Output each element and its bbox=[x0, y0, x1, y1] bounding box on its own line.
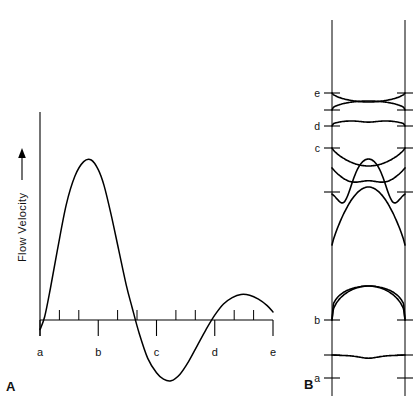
velocity-profile-curves bbox=[332, 93, 405, 358]
velocity-profile-b bbox=[332, 286, 405, 320]
x-axis-major-ticks bbox=[40, 320, 273, 336]
x-tick-label-d: d bbox=[212, 346, 218, 358]
profile-label-e: e bbox=[314, 87, 320, 99]
vessel-wall-ticks bbox=[324, 93, 413, 378]
x-tick-label-b: b bbox=[95, 346, 101, 358]
profile-label-d: d bbox=[314, 120, 320, 132]
x-tick-label-a: a bbox=[37, 346, 44, 358]
velocity-profile-d bbox=[332, 121, 405, 126]
panel-b-velocity-profiles: e d c b a B bbox=[300, 0, 419, 406]
y-axis-arrow-icon bbox=[18, 148, 26, 180]
y-axis-label: Flow Velocity bbox=[16, 193, 28, 262]
panel-a-svg: Flow Velocity a bbox=[0, 0, 300, 406]
velocity-profile-5 bbox=[332, 168, 405, 182]
x-axis-minor-ticks bbox=[59, 310, 253, 320]
profile-label-c: c bbox=[315, 142, 320, 154]
profile-labels: e d c b a bbox=[314, 87, 320, 384]
velocity-profile-a bbox=[332, 355, 405, 358]
x-axis-tick-labels: a b c d e bbox=[37, 346, 276, 358]
profile-label-b: b bbox=[314, 314, 320, 326]
panel-a-flow-velocity-waveform: Flow Velocity a bbox=[0, 0, 300, 406]
x-tick-label-c: c bbox=[154, 346, 160, 358]
profile-label-a: a bbox=[314, 372, 320, 384]
velocity-profile-3 bbox=[332, 187, 405, 245]
x-tick-label-e: e bbox=[270, 346, 276, 358]
figure-root: Flow Velocity a bbox=[0, 0, 419, 406]
velocity-profile-c bbox=[332, 148, 405, 166]
panel-a-letter: A bbox=[6, 380, 16, 393]
panel-b-letter: B bbox=[304, 378, 314, 391]
panel-b-svg: e d c b a bbox=[300, 0, 419, 406]
velocity-profile-1 bbox=[332, 286, 405, 320]
